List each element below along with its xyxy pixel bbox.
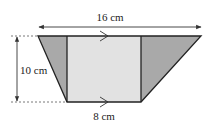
trapezium-diagram: 16 cm 10 cm 8 cm xyxy=(0,0,214,134)
top-width-label: 16 cm xyxy=(96,11,124,23)
bottom-width-label: 8 cm xyxy=(93,110,115,122)
central-rectangle xyxy=(67,36,141,102)
height-label: 10 cm xyxy=(20,64,48,76)
